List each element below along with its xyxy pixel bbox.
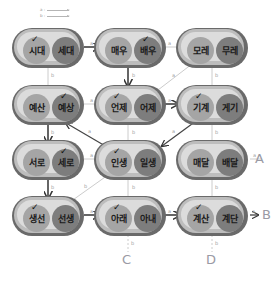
exit-label-b: B [262,207,271,222]
check-icon: ✓ [142,34,149,44]
edge-label-b: b [51,184,54,190]
word-choice-left[interactable]: ✓시대 [23,37,50,64]
word-text: 배우 [140,44,155,57]
edge-label-b: b [215,240,218,246]
check-icon: ✓ [31,202,38,212]
word-text: 예상 [58,101,73,114]
word-text: 세대 [58,44,73,57]
exit-label-c: C [122,252,131,267]
edge-label-b: b [215,72,218,78]
edge-label-a: a [168,208,171,214]
word-text: 아래 [111,212,126,225]
word-text: 아내 [140,212,155,225]
node-seoro-sero: 서로 ✓세로 [12,140,84,180]
node-gyesan-gyedan: ✓계산 계단 [176,196,248,236]
word-text: 생선 [29,212,44,225]
word-choice-right[interactable]: 아내 [134,205,161,232]
node-more-mure: 모레 무레 [176,28,248,68]
check-icon: ✓ [113,202,120,212]
check-icon: ✓ [195,202,202,212]
word-text: 모레 [193,44,208,57]
word-choice-left[interactable]: 서로 [23,149,50,176]
word-choice-right[interactable]: 계단 [216,205,243,232]
word-text: 예산 [29,101,44,114]
word-choice-left[interactable]: 예산 [23,94,50,121]
node-maeu-baeu: 매우 ✓배우 [94,28,166,68]
word-choice-left[interactable]: ✓인생 [105,149,132,176]
word-text: 계산 [193,212,208,225]
word-choice-left[interactable]: ✓아래 [105,205,132,232]
word-text: 게기 [222,101,237,114]
word-choice-left[interactable]: ✓계산 [187,205,214,232]
word-text: 서로 [29,156,44,169]
edge-label-b: b [84,183,87,189]
node-arae-anae: ✓아래 아내 [94,196,166,236]
node-insaeng-ilsaeng: ✓인생 일생 [94,140,166,180]
word-choice-left[interactable]: 매달 [187,149,214,176]
word-text: 매우 [111,44,126,57]
word-choice-right[interactable]: 배달 [216,149,243,176]
node-saengseon-seonsaeng: ✓생선 선생 [12,196,84,236]
word-text: 어제 [140,101,155,114]
edge-label-b: b [51,72,54,78]
word-choice-left[interactable]: ✓생선 [23,205,50,232]
exit-label-a: A [255,151,264,166]
word-choice-right[interactable]: 무레 [216,37,243,64]
word-choice-right[interactable]: ✓세로 [52,149,79,176]
edge-label-a: a [90,40,93,46]
word-text: 매달 [193,156,208,169]
edge-label-b: b [51,129,54,135]
word-choice-right[interactable]: ✓배우 [134,37,161,64]
node-maedal-baedal: 매달 배달 [176,140,248,180]
check-icon: ✓ [113,146,120,156]
edge-label-a: a [90,97,93,103]
word-text: 선생 [58,212,73,225]
edge-label-a: a [172,128,175,134]
edge-label-b: b [215,184,218,190]
node-sidae-sedae: ✓시대 세대 [12,28,84,68]
word-text: 세로 [58,156,73,169]
word-choice-left[interactable]: 매우 [105,37,132,64]
word-choice-right[interactable]: 선생 [52,205,79,232]
word-choice-right[interactable]: 일생 [134,149,161,176]
edge-label-a: a [168,40,171,46]
word-text: 언제 [111,101,126,114]
word-choice-left[interactable]: 모레 [187,37,214,64]
edge-label-a: a [90,152,93,158]
word-choice-right[interactable]: 어제 [134,94,161,121]
exit-label-d: D [206,252,216,267]
edge-label-b: b [132,129,135,135]
check-icon: ✓ [60,91,67,101]
word-choice-right[interactable]: 세대 [52,37,79,64]
word-text: 시대 [29,44,44,57]
edge-label-b: b [132,72,135,78]
word-text: 무레 [222,44,237,57]
word-maze-diagram: a : b : [0,0,278,282]
word-text: 일생 [140,156,155,169]
word-choice-left[interactable]: ✓기계 [187,94,214,121]
word-text: 계단 [222,212,237,225]
word-choice-left[interactable]: ✓언제 [105,94,132,121]
check-icon: ✓ [113,91,120,101]
node-yesan-yesang: 예산 ✓예상 [12,85,84,125]
edge-label-b: b [131,240,134,246]
node-gigye-gegi: ✓기계 게기 [176,85,248,125]
word-choice-right[interactable]: ✓예상 [52,94,79,121]
edge-label-b: b [215,129,218,135]
word-choice-right[interactable]: 게기 [216,94,243,121]
check-icon: ✓ [195,91,202,101]
word-text: 기계 [193,101,208,114]
node-eonje-eoje: ✓언제 어제 [94,85,166,125]
edge-label-b: b [132,184,135,190]
edge-label-a: a [88,128,91,134]
word-text: 인생 [111,156,126,169]
check-icon: ✓ [31,34,38,44]
edge-label-a: a [252,208,255,214]
edge-label-a: a [172,72,175,78]
check-icon: ✓ [60,146,67,156]
edge-label-a: a [90,208,93,214]
word-text: 배달 [222,156,237,169]
edge-label-a: a [168,97,171,103]
